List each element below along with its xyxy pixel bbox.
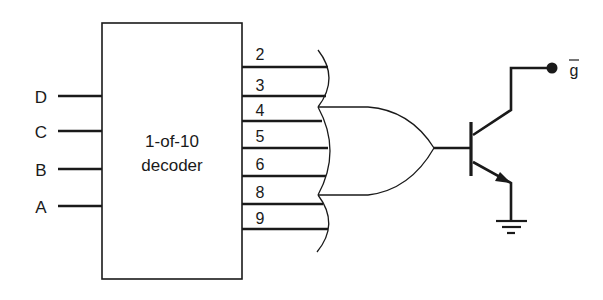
or-gate-input-arc-top xyxy=(318,50,329,107)
decoder-outputs: 2 3 4 5 6 8 9 xyxy=(242,46,328,229)
emitter-lead xyxy=(473,162,511,221)
output-label-3: 3 xyxy=(256,77,265,94)
output-terminal-dot xyxy=(547,63,558,74)
output-label-g-bar: g xyxy=(569,60,579,79)
decoder-title-line2: decoder xyxy=(141,156,203,175)
output-label-5: 5 xyxy=(256,128,265,145)
input-label-d: D xyxy=(35,88,47,107)
output-label-8: 8 xyxy=(256,184,265,201)
decoder-box xyxy=(102,23,242,279)
input-label-a: A xyxy=(35,198,47,217)
emitter-arrow-icon xyxy=(495,172,511,183)
ground-icon xyxy=(496,221,527,233)
decoder-inputs: D C B A xyxy=(35,88,102,217)
input-label-b: B xyxy=(35,161,46,180)
output-label-2: 2 xyxy=(256,46,265,63)
output-label-4: 4 xyxy=(256,102,265,119)
or-gate-top-curve xyxy=(318,107,434,148)
circuit-diagram: 1-of-10 decoder D C B A 2 3 4 5 6 xyxy=(0,0,603,300)
decoder-title-line1: 1-of-10 xyxy=(145,132,199,151)
or-gate-bottom-curve xyxy=(318,148,434,195)
collector-lead xyxy=(473,68,548,135)
output-label-6: 6 xyxy=(256,156,265,173)
npn-transistor xyxy=(471,68,548,221)
output-label-g: g xyxy=(570,62,579,79)
output-label-9: 9 xyxy=(256,210,265,227)
input-label-c: C xyxy=(35,123,47,142)
or-gate xyxy=(317,50,434,252)
decoder-block: 1-of-10 decoder xyxy=(102,23,242,279)
